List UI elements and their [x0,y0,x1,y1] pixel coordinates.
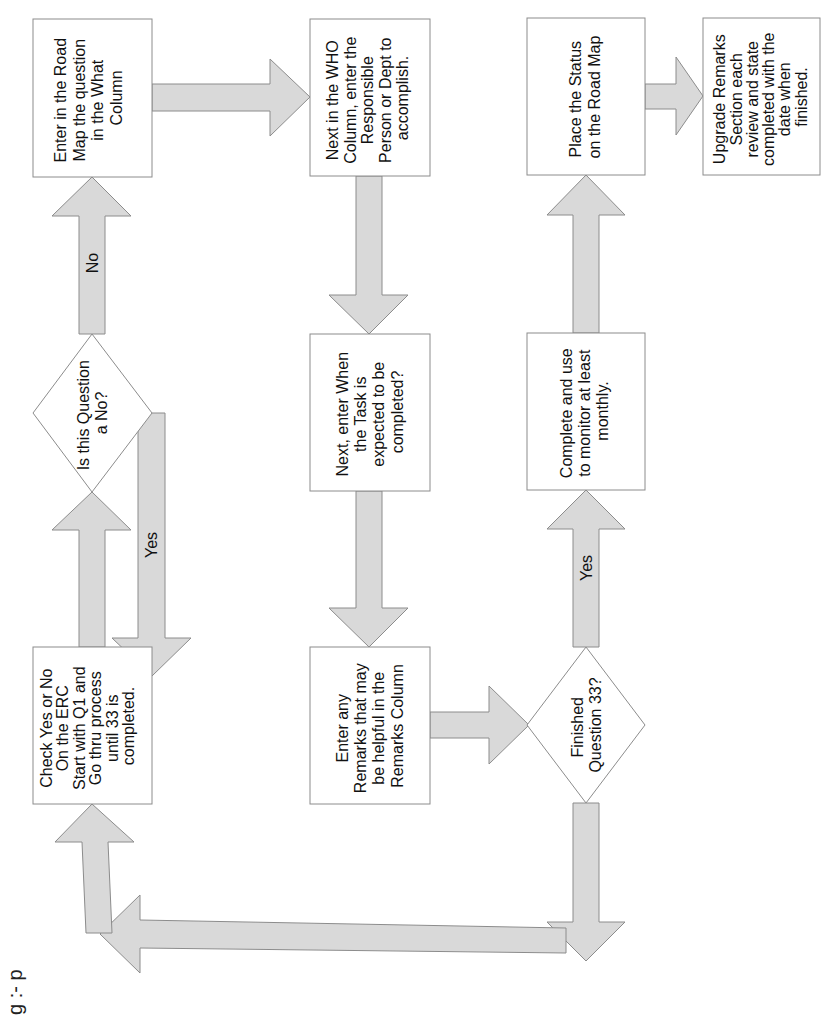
node-finished-q33: Finished Question 33? [527,647,645,803]
arrow-check-to-decision [52,492,131,647]
node-is-question-no: Is this Question a No? [33,334,152,492]
arrow-remarks-to-finished [430,686,529,764]
node-enter-remarks: Enter any Remarks that may be helpful in… [310,647,430,804]
arrow-who-to-when [329,176,408,334]
node-upgrade-remarks: Upgrade Remarks Section each review and … [703,18,820,175]
node-who-column: Next in the WHO Column, enter the Respon… [310,19,430,176]
arrow-return-left [100,895,566,973]
cropped-corner-text: g :- p [4,969,26,1015]
edge-label-yes-loop: Yes [143,532,160,558]
arrow-status-to-upgrade [645,57,703,135]
node-place-status: Place the Status on the Road Map [527,18,645,175]
flowchart-canvas: Enter in the Road Map the question in th… [0,0,824,1015]
svg-text:Place the Status on the: Place the Status on the Road Map [567,36,602,159]
node-complete-monitor: Complete and use to monitor at least mon… [527,333,645,490]
node-check-yes-no: Check Yes or No On the ERC Start with Q1… [33,647,152,804]
arrow-road-map-to-who [152,59,310,136]
node-enter-road-map: Enter in the Road Map the question in th… [33,19,152,177]
edge-label-no: No [84,253,101,274]
node-when-task: Next, enter When the Task is expected to… [310,334,430,491]
arrow-complete-to-status [547,175,625,333]
arrow-when-to-remarks [329,491,408,647]
edge-label-yes-finished: Yes [578,555,595,581]
